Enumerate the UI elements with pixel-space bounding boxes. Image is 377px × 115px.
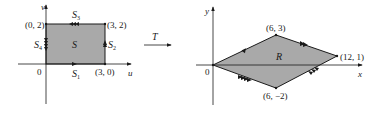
side-label-s2: S2 bbox=[108, 39, 116, 51]
vertex-label-3-0: (3, 0) bbox=[95, 67, 115, 77]
vertex-label-3-2: (3, 2) bbox=[107, 20, 127, 30]
region-r-label: R bbox=[275, 51, 282, 62]
vertex-label-6-3: (6, 3) bbox=[266, 23, 286, 33]
v-axis-label: v bbox=[41, 2, 45, 12]
u-axis-label: u bbox=[128, 68, 133, 78]
region-r bbox=[213, 35, 337, 88]
transform-label: T bbox=[152, 31, 159, 42]
x-axis-label: x bbox=[357, 69, 362, 79]
region-s-label: S bbox=[72, 39, 77, 50]
side-label-s4: S4 bbox=[34, 39, 42, 51]
vertex-label-12-1: (12, 1) bbox=[340, 52, 364, 62]
origin-label-right: 0 bbox=[205, 67, 210, 77]
vertex-label-0-2: (0, 2) bbox=[25, 20, 45, 30]
transform-arrow: T bbox=[144, 31, 171, 45]
origin-label-left: 0 bbox=[37, 67, 42, 77]
xy-plane: y x 0 R (6, 3) (12, 1) (6, −2) bbox=[196, 6, 364, 105]
side-label-s1: S1 bbox=[72, 68, 80, 80]
uv-plane: v u 0 S (0, 2) (3, 2) (3, 0) S1 S2 S3 S4 bbox=[18, 2, 133, 104]
transformation-diagram: v u 0 S (0, 2) (3, 2) (3, 0) S1 S2 S3 S4… bbox=[0, 0, 377, 115]
y-axis-label: y bbox=[204, 6, 209, 16]
vertex-label-6-neg2: (6, −2) bbox=[263, 91, 288, 101]
side-label-s3: S3 bbox=[72, 9, 80, 21]
